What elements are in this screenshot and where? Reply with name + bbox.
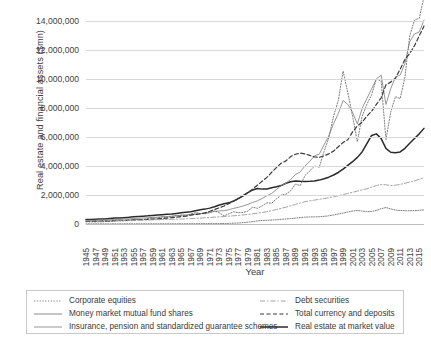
x-axis-tick: 1999 bbox=[339, 248, 348, 266]
plot-area bbox=[86, 21, 424, 224]
grid-line bbox=[86, 195, 424, 196]
grid-line bbox=[86, 21, 424, 22]
grid-line bbox=[86, 79, 424, 80]
legend-key-icon bbox=[259, 309, 289, 319]
x-axis-tick: 1945 bbox=[82, 248, 91, 266]
legend-key-icon bbox=[33, 296, 63, 306]
x-axis-tick: 1951 bbox=[111, 248, 120, 266]
x-axis-line bbox=[86, 224, 424, 225]
x-axis-tick: 1993 bbox=[311, 248, 320, 266]
x-axis-tick: 1949 bbox=[101, 248, 110, 266]
grid-line bbox=[86, 166, 424, 167]
x-axis-tick: 1957 bbox=[139, 248, 148, 266]
legend-line-sample bbox=[33, 322, 63, 332]
x-axis-tick: 1991 bbox=[301, 248, 310, 266]
x-axis-tick: 2007 bbox=[377, 248, 386, 266]
y-axis-tick: 0 bbox=[5, 219, 79, 229]
x-axis-tick: 1963 bbox=[168, 248, 177, 266]
y-axis-tick: 8,000,000 bbox=[5, 103, 79, 113]
y-axis-tick: 4,000,000 bbox=[5, 161, 79, 171]
series-lines bbox=[86, 21, 424, 224]
series-line bbox=[86, 128, 424, 219]
legend-item[interactable]: Money market mutual fund shares bbox=[33, 307, 277, 320]
x-axis-tick: 1973 bbox=[215, 248, 224, 266]
x-axis-tick: 2011 bbox=[396, 248, 405, 266]
legend-label: Insurance, pension and standardized guar… bbox=[69, 322, 277, 331]
legend-key-icon bbox=[33, 309, 63, 319]
legend-item[interactable]: Debt securities bbox=[259, 294, 395, 307]
grid-line bbox=[86, 50, 424, 51]
x-axis-tick: 1997 bbox=[330, 248, 339, 266]
chart-legend: Corporate equitiesMoney market mutual fu… bbox=[26, 290, 404, 334]
y-axis-tick: 14,000,000 bbox=[5, 16, 79, 26]
x-axis-tick: 1989 bbox=[291, 248, 300, 266]
x-axis-tick: 1959 bbox=[149, 248, 158, 266]
x-axis-tick: 1967 bbox=[187, 248, 196, 266]
series-line bbox=[86, 26, 424, 221]
x-axis-tick: 1979 bbox=[244, 248, 253, 266]
x-axis-tick: 1971 bbox=[206, 248, 215, 266]
y-axis-tick: 2,000,000 bbox=[5, 190, 79, 200]
x-axis-tick-labels: 1945194719491951195319551957195919611963… bbox=[86, 226, 424, 266]
legend-line-sample bbox=[259, 322, 289, 332]
series-line bbox=[86, 208, 424, 224]
legend-line-sample bbox=[259, 296, 289, 306]
grid-line bbox=[86, 108, 424, 109]
series-line bbox=[86, 178, 424, 221]
x-axis-tick: 2001 bbox=[349, 248, 358, 266]
legend-line-sample bbox=[33, 296, 63, 306]
legend-label: Corporate equities bbox=[69, 296, 136, 305]
legend-column-left: Corporate equitiesMoney market mutual fu… bbox=[33, 294, 277, 333]
legend-item[interactable]: Total currency and deposits bbox=[259, 307, 395, 320]
legend-item[interactable]: Real estate at market value bbox=[259, 320, 395, 333]
x-axis-tick: 1995 bbox=[320, 248, 329, 266]
legend-label: Total currency and deposits bbox=[295, 309, 395, 318]
legend-key-icon bbox=[259, 296, 289, 306]
x-axis-tick: 2003 bbox=[358, 248, 367, 266]
legend-column-right: Debt securitiesTotal currency and deposi… bbox=[259, 294, 395, 333]
x-axis-tick: 2013 bbox=[406, 248, 415, 266]
x-axis-tick: 1987 bbox=[282, 248, 291, 266]
x-axis-tick: 1975 bbox=[225, 248, 234, 266]
x-axis-tick: 1961 bbox=[158, 248, 167, 266]
x-axis-tick: 1955 bbox=[130, 248, 139, 266]
x-axis-tick: 1969 bbox=[196, 248, 205, 266]
legend-line-sample bbox=[33, 309, 63, 319]
legend-item[interactable]: Corporate equities bbox=[33, 294, 277, 307]
legend-label: Money market mutual fund shares bbox=[69, 309, 193, 318]
legend-item[interactable]: Insurance, pension and standardized guar… bbox=[33, 320, 277, 333]
x-axis-tick: 1981 bbox=[253, 248, 262, 266]
x-axis-tick: 1947 bbox=[92, 248, 101, 266]
x-axis-tick: 1953 bbox=[120, 248, 129, 266]
y-axis-tick: 6,000,000 bbox=[5, 132, 79, 142]
legend-key-icon bbox=[259, 322, 289, 332]
legend-line-sample bbox=[259, 309, 289, 319]
legend-key-icon bbox=[33, 322, 63, 332]
y-axis-tick: 12,000,000 bbox=[5, 45, 79, 55]
x-axis-tick: 1977 bbox=[234, 248, 243, 266]
grid-line bbox=[86, 137, 424, 138]
x-axis-tick: 1983 bbox=[263, 248, 272, 266]
x-axis-tick: 2009 bbox=[387, 248, 396, 266]
y-axis-tick: 10,000,000 bbox=[5, 74, 79, 84]
legend-label: Real estate at market value bbox=[295, 322, 395, 331]
x-axis-tick: 1985 bbox=[272, 248, 281, 266]
chart-container: Real estate and financial assets ($mn) 0… bbox=[0, 0, 431, 342]
x-axis-title: Year bbox=[86, 266, 424, 277]
x-axis-tick: 2005 bbox=[368, 248, 377, 266]
x-axis-tick: 2015 bbox=[415, 248, 424, 266]
x-axis-tick: 1965 bbox=[177, 248, 186, 266]
legend-label: Debt securities bbox=[295, 296, 349, 305]
